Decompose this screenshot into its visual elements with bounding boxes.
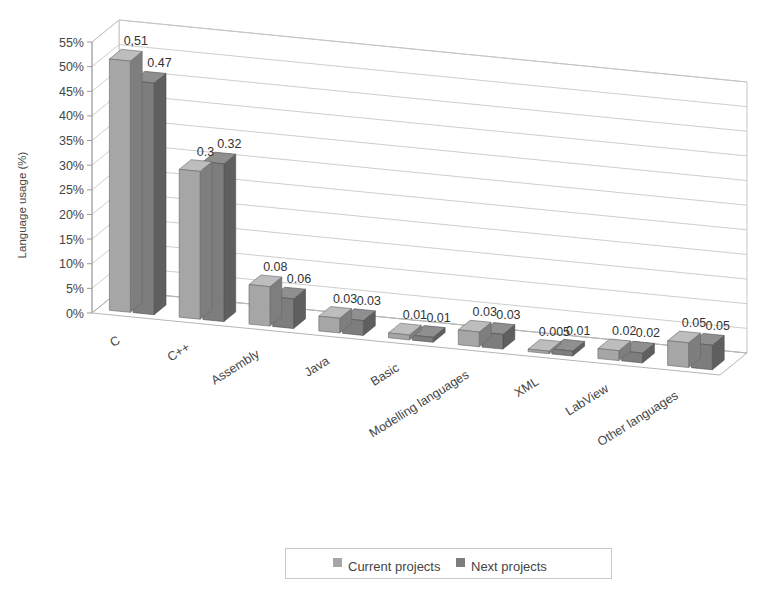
y-axis-tick-label: 5% <box>66 282 84 296</box>
category-labels: CC++AssemblyJavaBasicModelling languages… <box>107 333 680 449</box>
bar-0-0 <box>109 49 142 312</box>
bar-front-face <box>598 349 619 361</box>
bar-front-face <box>109 59 130 312</box>
value-label: 0.03 <box>496 308 520 322</box>
chart-figure: 0%5%10%15%20%25%30%35%40%45%50%55% 0,510… <box>0 0 767 600</box>
legend-swatch-next-projects <box>456 558 465 567</box>
y-axis-tick-label: 0% <box>66 307 84 321</box>
value-label: 0.01 <box>566 324 590 338</box>
bar-front-face <box>249 285 270 327</box>
y-axis-tick-label: 10% <box>59 257 84 271</box>
y-axis-tick-label: 30% <box>59 159 84 173</box>
category-label-xml: XML <box>512 374 541 400</box>
category-label-other-languages: Other languages <box>595 388 681 449</box>
legend-label-next-projects: Next projects <box>471 559 547 574</box>
category-label-c-: C++ <box>165 340 192 364</box>
bar-front-face <box>319 316 340 333</box>
value-label: 0.03 <box>357 294 381 308</box>
bar-side-face <box>154 73 166 314</box>
y-axis-tick-label: 50% <box>59 60 84 74</box>
value-label: 0.32 <box>217 137 241 151</box>
y-axis-tick-label: 40% <box>59 109 84 123</box>
value-label: 0.02 <box>612 324 636 338</box>
value-label: 0.03 <box>333 292 357 306</box>
value-label: 0,51 <box>124 34 148 48</box>
y-axis-tick-label: 25% <box>59 183 84 197</box>
value-label: 0.01 <box>403 308 427 322</box>
category-label-labview: LabView <box>563 381 612 419</box>
category-label-assembly: Assembly <box>209 346 263 387</box>
value-label: 0.01 <box>426 311 450 325</box>
category-label-c: C <box>107 333 122 350</box>
bar-0-2 <box>249 275 282 326</box>
legend-swatch-current-projects <box>333 558 342 567</box>
category-label-java: Java <box>302 354 332 380</box>
bar-side-face <box>224 154 236 321</box>
y-axis-tick-label: 35% <box>59 134 84 148</box>
value-label: 0.08 <box>263 260 287 274</box>
y-axis-tick-label: 15% <box>59 233 84 247</box>
language-usage-3d-bar-chart: 0%5%10%15%20%25%30%35%40%45%50%55% 0,510… <box>0 0 767 600</box>
bar-side-face <box>130 51 142 312</box>
legend-label-current-projects: Current projects <box>348 559 441 574</box>
value-label: 0.06 <box>287 272 311 286</box>
bar-front-face <box>458 330 479 347</box>
bar-0-1 <box>179 160 212 320</box>
y-axis-title: Language usage (%) <box>16 151 28 258</box>
value-label: 0.05 <box>706 319 730 333</box>
y-axis <box>87 42 92 313</box>
value-label: 0.3 <box>197 145 214 159</box>
bar-front-face <box>179 169 200 319</box>
value-label: 0.02 <box>636 326 660 340</box>
y-axis-tick-label: 55% <box>59 36 84 50</box>
bar-front-face <box>668 341 689 368</box>
y-axis-tick-label: 20% <box>59 208 84 222</box>
value-label: 0.05 <box>682 316 706 330</box>
y-axis-title-text: Language usage (%) <box>16 151 28 258</box>
bar-0-8 <box>668 331 701 367</box>
y-axis-tick-label: 45% <box>59 85 84 99</box>
category-label-basic: Basic <box>368 361 401 389</box>
y-axis-tick-labels: 0%5%10%15%20%25%30%35%40%45%50%55% <box>59 36 84 321</box>
value-label: 0.03 <box>473 305 497 319</box>
legend: Current projects Next projects <box>286 549 612 579</box>
value-label: 0.47 <box>147 56 171 70</box>
bar-side-face <box>200 162 212 320</box>
